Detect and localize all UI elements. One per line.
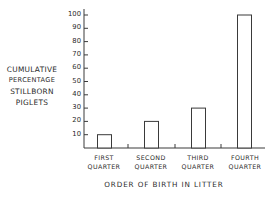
y-tick-label: 50 bbox=[61, 77, 81, 85]
y-tick-label: 90 bbox=[61, 23, 81, 31]
bar bbox=[98, 135, 112, 148]
x-category-label-line: SECOND bbox=[126, 153, 176, 162]
x-axis-title: ORDER OF BIRTH IN LITTER bbox=[84, 180, 244, 189]
x-category-label-line: THIRD bbox=[173, 153, 223, 162]
x-category-label-line: QUARTER bbox=[126, 162, 176, 171]
y-tick-label: 10 bbox=[61, 130, 81, 138]
y-tick-label: 80 bbox=[61, 37, 81, 45]
y-tick-label: 30 bbox=[61, 103, 81, 111]
x-category-label-line: QUARTER bbox=[79, 162, 129, 171]
x-category-label-line: FIRST bbox=[79, 153, 129, 162]
x-category-label-line: FOURTH bbox=[220, 153, 268, 162]
y-tick-label: 70 bbox=[61, 50, 81, 58]
x-category-label: SECONDQUARTER bbox=[126, 153, 176, 171]
y-tick-label: 40 bbox=[61, 90, 81, 98]
x-category-label-line: QUARTER bbox=[220, 162, 268, 171]
y-tick-label: 100 bbox=[61, 10, 81, 18]
bar bbox=[238, 15, 252, 148]
bar-chart: CUMULATIVE PERCENTAGE STILLBORN PIGLETS … bbox=[0, 0, 268, 199]
x-category-label: THIRDQUARTER bbox=[173, 153, 223, 171]
x-category-label: FOURTHQUARTER bbox=[220, 153, 268, 171]
bar bbox=[145, 121, 159, 148]
y-tick-label: 60 bbox=[61, 63, 81, 71]
x-category-label-line: QUARTER bbox=[173, 162, 223, 171]
y-tick-label: 20 bbox=[61, 116, 81, 124]
x-category-label: FIRSTQUARTER bbox=[79, 153, 129, 171]
bar bbox=[192, 108, 206, 148]
